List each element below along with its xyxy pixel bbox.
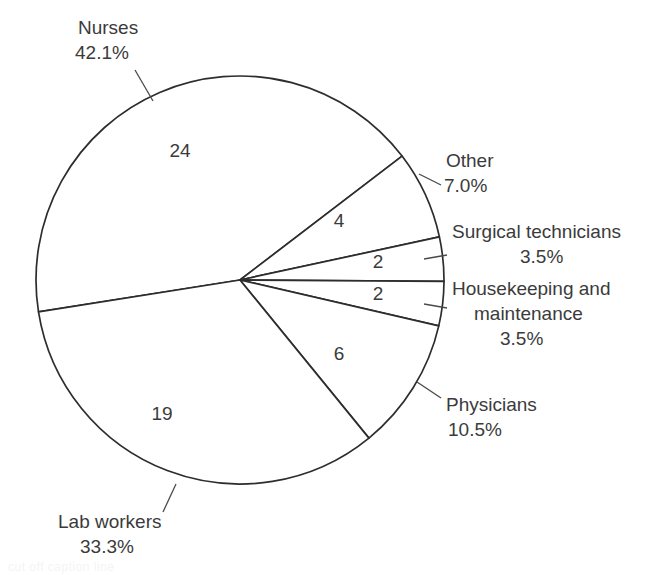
leader-line xyxy=(135,70,153,101)
slice-count-label: 4 xyxy=(334,210,345,231)
category-label-percent: 3.5% xyxy=(520,246,563,267)
category-label-percent: 33.3% xyxy=(80,536,134,557)
category-label-percent: 10.5% xyxy=(448,419,502,440)
category-label-name-line2: maintenance xyxy=(474,303,583,324)
leader-line xyxy=(419,174,441,185)
pie-chart-figure: 24422619 Nurses42.1%Other7.0%Surgical te… xyxy=(0,0,659,575)
category-label-percent: 7.0% xyxy=(444,175,487,196)
category-label-name: Housekeeping and xyxy=(452,278,610,299)
category-label-name: Lab workers xyxy=(58,511,162,532)
category-label-percent: 3.5% xyxy=(500,328,543,349)
category-label-name: Surgical technicians xyxy=(452,221,621,242)
category-label-name: Physicians xyxy=(446,394,537,415)
slice-count-label: 2 xyxy=(373,283,384,304)
category-label-percent: 42.1% xyxy=(75,42,129,63)
leader-line xyxy=(417,382,441,398)
slice-count-label: 2 xyxy=(373,251,384,272)
leader-line xyxy=(163,484,176,512)
category-label-name: Other xyxy=(446,150,494,171)
cut-off-caption: cut off caption line xyxy=(8,560,115,574)
category-label-name: Nurses xyxy=(78,17,138,38)
pie-chart-canvas: 24422619 Nurses42.1%Other7.0%Surgical te… xyxy=(0,0,659,575)
slice-count-label: 6 xyxy=(334,343,345,364)
slice-count-label: 24 xyxy=(169,140,191,161)
pie-slices-group xyxy=(36,76,444,484)
slice-count-label: 19 xyxy=(151,403,172,424)
